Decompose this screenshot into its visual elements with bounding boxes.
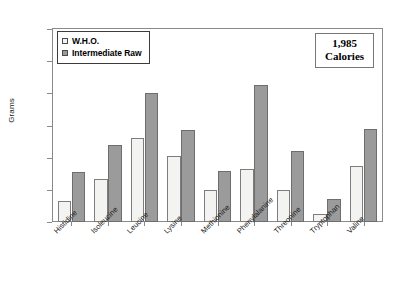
- bar-who: [350, 166, 364, 222]
- y-tick-mark: [47, 222, 52, 223]
- bar-who: [131, 138, 145, 222]
- bar-group: [277, 29, 305, 222]
- legend-item-who: W.H.O.: [62, 35, 142, 47]
- bar-group: [240, 29, 268, 222]
- bar-intermediate-raw: [181, 130, 195, 222]
- calories-callout: 1,985 Calories: [315, 33, 374, 68]
- x-tick-mark: [327, 222, 328, 226]
- x-tick-mark: [254, 222, 255, 226]
- legend-swatch-intermediate-raw-icon: [62, 50, 68, 56]
- bar-intermediate-raw: [364, 129, 378, 222]
- legend-label-who: W.H.O.: [72, 36, 99, 46]
- x-tick-mark: [144, 222, 145, 226]
- bar-group: [167, 29, 195, 222]
- legend-swatch-who-icon: [62, 38, 68, 44]
- calories-unit: Calories: [318, 50, 371, 63]
- legend-item-intermediate-raw: Intermediate Raw: [62, 47, 142, 59]
- bar-group: [204, 29, 232, 222]
- y-axis-title: Grams: [7, 81, 16, 141]
- chart-legend: W.H.O. Intermediate Raw: [57, 31, 150, 64]
- x-tick-mark: [71, 222, 72, 226]
- calories-value: 1,985: [318, 37, 371, 50]
- bar-who: [167, 156, 181, 222]
- chart-screenshot: Grams 0123456 HistidineIsoleucineLeucine…: [0, 0, 395, 285]
- bar-intermediate-raw: [145, 93, 159, 222]
- legend-label-intermediate-raw: Intermediate Raw: [72, 48, 142, 58]
